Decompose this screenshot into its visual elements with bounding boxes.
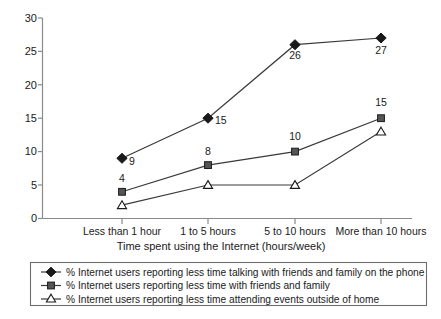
x-category-label-2: 5 to 10 hours (264, 225, 325, 237)
x-category-label-0: Less than 1 hour (83, 225, 162, 237)
y-tick-label: 15 (25, 112, 37, 124)
data-label-diamond-0: 9 (129, 155, 135, 167)
data-label-square-2: 10 (289, 130, 301, 142)
series-filled-diamond-line (122, 38, 381, 158)
y-tick-label: 5 (31, 179, 37, 191)
x-axis-category-labels: Less than 1 hour 1 to 5 hours 5 to 10 ho… (83, 225, 427, 237)
y-axis-tick-labels: 30 25 20 15 10 5 0 (25, 12, 37, 224)
y-tick-label: 10 (25, 145, 37, 157)
x-axis-title: Time spent using the Internet (hours/wee… (117, 240, 326, 252)
marker-square (205, 162, 212, 169)
data-label-diamond-2: 26 (289, 49, 301, 61)
series-filled-square (119, 115, 385, 195)
y-tick-label: 20 (25, 79, 37, 91)
marker-square (119, 188, 126, 195)
data-label-diamond-1: 15 (215, 114, 227, 126)
series-open-triangle-line (122, 132, 381, 206)
x-category-label-1: 1 to 5 hours (180, 225, 235, 237)
legend-item-2[interactable]: % Internet users reporting less time att… (41, 294, 379, 305)
series-open-triangle (117, 127, 385, 208)
legend-label-0: % Internet users reporting less time tal… (66, 267, 425, 278)
legend-label-1: % Internet users reporting less time wit… (66, 280, 331, 291)
legend-label-2: % Internet users reporting less time att… (66, 294, 379, 305)
legend-marker-square-icon (48, 282, 55, 289)
x-category-label-3: More than 10 hours (335, 225, 426, 237)
marker-diamond (376, 33, 386, 43)
legend-item-1[interactable]: % Internet users reporting less time wit… (41, 280, 331, 291)
line-chart: 30 25 20 15 10 5 0 (0, 0, 441, 319)
y-tick-label: 30 (25, 12, 37, 24)
data-label-diamond-3: 27 (375, 44, 387, 56)
y-tick-label: 25 (25, 45, 37, 57)
chart-svg: 30 25 20 15 10 5 0 (0, 0, 441, 319)
data-label-square-1: 8 (205, 145, 211, 157)
data-label-square-3: 15 (375, 96, 387, 108)
legend-item-0[interactable]: % Internet users reporting less time tal… (41, 267, 425, 278)
marker-diamond (117, 153, 127, 163)
marker-square (292, 148, 299, 155)
y-tick-label: 0 (31, 212, 37, 224)
data-value-labels: 9 15 26 27 4 8 10 15 (119, 44, 387, 184)
series-filled-square-line (122, 118, 381, 192)
marker-square (378, 115, 385, 122)
series-filled-diamond (117, 33, 386, 163)
data-label-square-0: 4 (119, 172, 125, 184)
marker-open-triangle (376, 127, 385, 135)
legend: % Internet users reporting less time tal… (31, 263, 427, 306)
